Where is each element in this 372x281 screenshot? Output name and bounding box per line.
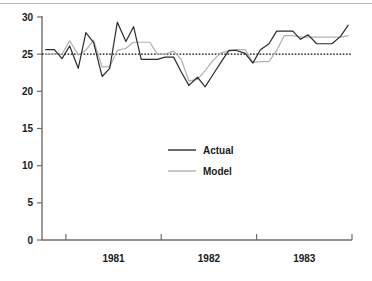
chart-figure: 051015202530 198119821983 Actual Model bbox=[0, 0, 372, 281]
y-tick-label: 30 bbox=[22, 12, 34, 23]
y-tick-label: 15 bbox=[22, 123, 34, 134]
y-tick-label: 25 bbox=[22, 49, 34, 60]
x-axis-ticks bbox=[66, 234, 352, 240]
legend-entry-actual: Actual bbox=[168, 145, 234, 156]
x-tick-label: 1983 bbox=[293, 253, 316, 264]
x-tick-label: 1982 bbox=[198, 253, 221, 264]
x-tick-label: 1981 bbox=[102, 253, 125, 264]
series-line-model bbox=[46, 36, 348, 81]
y-axis-ticks bbox=[37, 17, 42, 240]
y-tick-label: 0 bbox=[27, 235, 33, 246]
time-axis: 198119821983 bbox=[42, 234, 352, 264]
legend-entry-model: Model bbox=[168, 166, 232, 177]
y-tick-label: 10 bbox=[22, 160, 34, 171]
legend-label-model: Model bbox=[203, 166, 232, 177]
chart-legend: Actual Model bbox=[168, 145, 234, 177]
y-tick-label: 20 bbox=[22, 86, 34, 97]
legend-label-actual: Actual bbox=[203, 145, 234, 156]
value-axis: 051015202530 bbox=[22, 12, 42, 246]
y-tick-label: 5 bbox=[27, 197, 33, 208]
x-axis-tick-labels: 198119821983 bbox=[102, 253, 315, 264]
line-chart: 051015202530 198119821983 Actual Model bbox=[0, 0, 372, 281]
y-axis-tick-labels: 051015202530 bbox=[22, 12, 34, 246]
